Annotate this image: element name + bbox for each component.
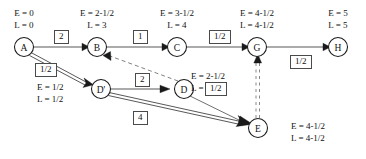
- edge-label-b-c: 1: [133, 30, 148, 44]
- edge-label-c-g: 1/2: [209, 30, 231, 44]
- edge-e-to-g-dummy: [254, 54, 262, 118]
- node-d-earliest: E = 2-1/2: [191, 71, 225, 83]
- edge-label-g-h: 1/2: [290, 55, 312, 69]
- edge-label-dprime-e: 4: [133, 111, 148, 125]
- node-a-earliest: E = 0: [14, 8, 34, 20]
- node-c-earliest: E = 3-1/2: [160, 8, 194, 20]
- node-c[interactable]: C: [168, 38, 187, 57]
- edge-label-a-b: 2: [54, 30, 69, 44]
- node-d-prime-times: E = 1/2 L = 1/2: [37, 82, 64, 105]
- network-diagram-canvas: A B C G H D' D E: [0, 0, 366, 159]
- node-a-times: E = 0 L = 0: [14, 8, 34, 31]
- node-a-latest: L = 0: [14, 20, 34, 32]
- edge-label-d-e: 1/2: [205, 82, 227, 96]
- edge-label-dprime-d: 2: [135, 73, 150, 87]
- node-h-label: H: [335, 43, 342, 53]
- edge-g-to-h: [267, 43, 331, 51]
- node-d-prime[interactable]: D': [92, 80, 111, 99]
- edge-a-to-b: [34, 43, 90, 51]
- edge-label-a-dprime: 1/2: [35, 63, 57, 77]
- node-a-label: A: [21, 43, 28, 53]
- node-c-times: E = 3-1/2 L = 4: [160, 8, 194, 31]
- edge-c-to-g: [187, 43, 250, 51]
- node-g-latest: L = 4-1/2: [240, 20, 274, 32]
- node-b-label: B: [94, 43, 100, 53]
- node-c-latest: L = 4: [160, 20, 194, 32]
- node-b[interactable]: B: [88, 38, 107, 57]
- node-e-times: E = 4-1/2 L = 4-1/2: [291, 121, 325, 144]
- node-e-earliest: E = 4-1/2: [291, 121, 325, 133]
- node-h-latest: L = 5: [328, 20, 348, 32]
- node-h-earliest: E = 5: [328, 8, 348, 20]
- node-d-label: D: [181, 85, 188, 95]
- node-b-latest: L = 3: [80, 20, 114, 32]
- node-e[interactable]: E: [249, 119, 268, 138]
- node-g-times: E = 4-1/2 L = 4-1/2: [240, 8, 274, 31]
- node-g-label: G: [254, 43, 261, 53]
- node-e-label: E: [255, 124, 261, 134]
- node-b-times: E = 2-1/2 L = 3: [80, 8, 114, 31]
- node-a[interactable]: A: [15, 38, 34, 57]
- node-h[interactable]: H: [329, 38, 348, 57]
- node-d-prime-earliest: E = 1/2: [37, 82, 64, 94]
- node-e-latest: L = 4-1/2: [291, 133, 325, 145]
- node-g-earliest: E = 4-1/2: [240, 8, 274, 20]
- node-h-times: E = 5 L = 5: [328, 8, 348, 31]
- node-b-earliest: E = 2-1/2: [80, 8, 114, 20]
- node-d-prime-label: D': [97, 85, 106, 95]
- node-g[interactable]: G: [248, 38, 267, 57]
- node-d-prime-latest: L = 1/2: [37, 94, 64, 106]
- edge-b-to-c: [107, 43, 170, 51]
- node-c-label: C: [174, 43, 180, 53]
- edge-d-to-e: [190, 96, 252, 126]
